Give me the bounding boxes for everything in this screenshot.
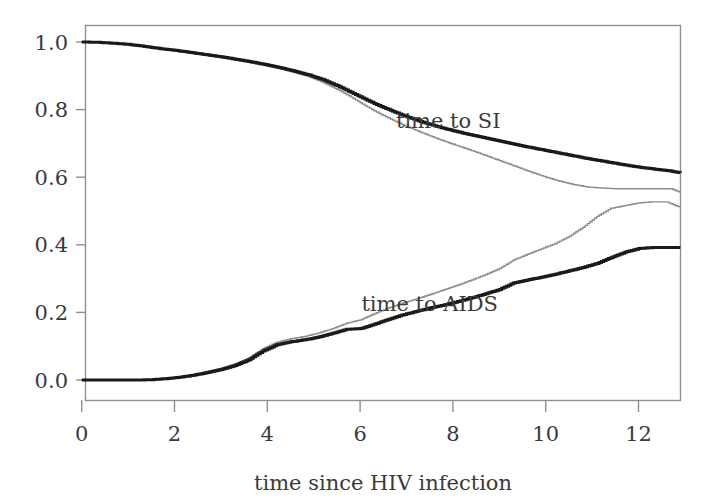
y-tick-label: 0.6 [35, 166, 68, 190]
x-tick-label: 10 [532, 422, 559, 446]
x-tick-label: 2 [168, 422, 181, 446]
chart-figure: 0.00.20.40.60.81.0 024681012 time to SIt… [0, 0, 707, 504]
x-tick-label: 6 [353, 422, 366, 446]
y-tick-label: 0.0 [35, 369, 68, 393]
x-tick-label: 8 [446, 422, 459, 446]
curve-label-aids: time to AIDS [361, 292, 498, 316]
x-tick-label: 12 [625, 422, 652, 446]
x-tick-label: 4 [261, 422, 274, 446]
y-tick-label: 1.0 [35, 31, 68, 55]
y-tick-label: 0.2 [35, 301, 68, 325]
y-tick-label: 0.8 [35, 98, 68, 122]
curve-label-si: time to SI [396, 109, 501, 133]
x-tick-label: 0 [75, 422, 88, 446]
y-tick-label: 0.4 [35, 233, 68, 257]
x-axis-title: time since HIV infection [254, 471, 512, 495]
survival-curves-chart: 0.00.20.40.60.81.0 024681012 time to SIt… [0, 0, 707, 504]
